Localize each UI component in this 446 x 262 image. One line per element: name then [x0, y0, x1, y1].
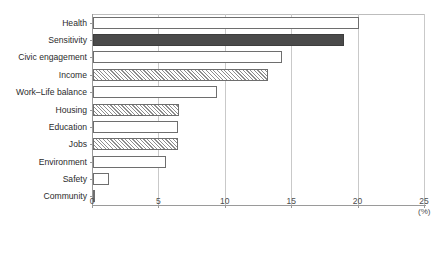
y-tickmark [90, 92, 92, 93]
bar [93, 86, 217, 98]
y-category-label: Community [44, 191, 87, 201]
bar [93, 156, 166, 168]
x-ticklabel: 15 [286, 196, 295, 206]
y-tickmark [90, 127, 92, 128]
y-category-label: Civic engagement [18, 52, 87, 62]
bar [93, 173, 109, 185]
y-category-label: Housing [55, 105, 87, 115]
y-tickmark [90, 162, 92, 163]
plot-top-border [92, 14, 425, 15]
y-tickmark [90, 110, 92, 111]
gridline-20 [358, 14, 359, 205]
y-category-label: Sensitivity [48, 35, 87, 45]
y-category-label: Income [59, 70, 87, 80]
x-ticklabel: 20 [353, 196, 362, 206]
y-tickmark [90, 179, 92, 180]
x-axis-unit-label: (%) [418, 207, 430, 216]
y-category-label: Safety [63, 174, 87, 184]
y-category-label: Work–Life balance [16, 87, 87, 97]
y-category-label: Health [62, 18, 87, 28]
bar [93, 51, 282, 63]
bar-chart-figure: 0510152025 HealthSensitivityCivic engage… [0, 0, 446, 262]
x-ticklabel: 0 [90, 196, 95, 206]
x-ticklabel: 10 [220, 196, 229, 206]
bar [93, 104, 179, 116]
y-category-label: Education [49, 122, 87, 132]
x-ticklabel: 25 [419, 196, 428, 206]
y-tickmark [90, 75, 92, 76]
gridline-25 [424, 14, 425, 205]
x-ticklabel: 5 [156, 196, 161, 206]
x-axis-line [92, 205, 426, 206]
bar [93, 34, 344, 46]
y-tickmark [90, 57, 92, 58]
bar [93, 121, 178, 133]
bar [93, 138, 178, 150]
y-category-label: Jobs [69, 139, 87, 149]
bar [93, 17, 359, 29]
y-category-label: Environment [39, 157, 87, 167]
plot-area [92, 14, 425, 205]
y-tickmark [90, 23, 92, 24]
y-tickmark [90, 144, 92, 145]
y-tickmark [90, 40, 92, 41]
bar [93, 69, 268, 81]
